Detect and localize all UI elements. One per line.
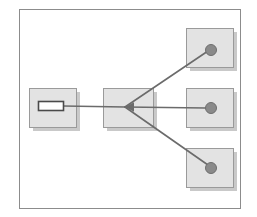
edge-source-to-hub[interactable] [63,106,125,107]
slot-layer [39,102,64,111]
node-middle[interactable] [206,103,217,114]
node-bottom[interactable] [206,163,217,174]
diagram-canvas [0,0,257,217]
diagram-svg [0,0,257,217]
edge-hub-to-node-middle[interactable] [125,107,206,108]
source-slot[interactable] [39,102,64,111]
node-top[interactable] [206,45,217,56]
